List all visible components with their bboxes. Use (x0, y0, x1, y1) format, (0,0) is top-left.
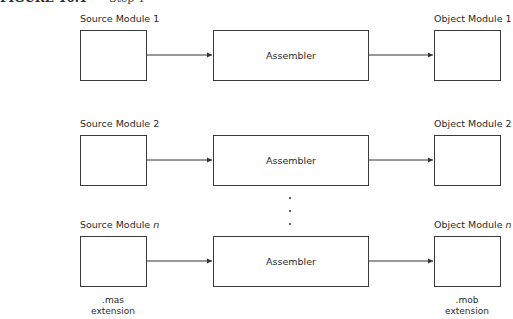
flow-arrows (0, 0, 513, 319)
